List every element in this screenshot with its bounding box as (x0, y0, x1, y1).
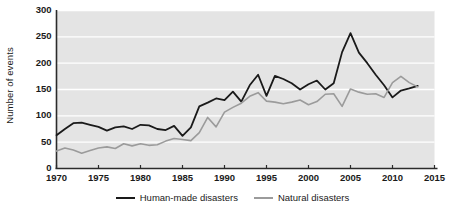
legend-item: Natural disasters (254, 192, 349, 203)
chart-legend: Human-made disastersNatural disasters (0, 192, 465, 203)
chart-figure: Number of events 300250200150100500 1970… (0, 0, 465, 218)
legend-line-swatch (116, 197, 135, 199)
legend-item-label: Human-made disasters (140, 192, 238, 203)
plot-area (0, 0, 465, 218)
legend-line-swatch (254, 197, 273, 199)
legend-item: Human-made disasters (116, 192, 238, 203)
legend-item-label: Natural disasters (278, 192, 349, 203)
